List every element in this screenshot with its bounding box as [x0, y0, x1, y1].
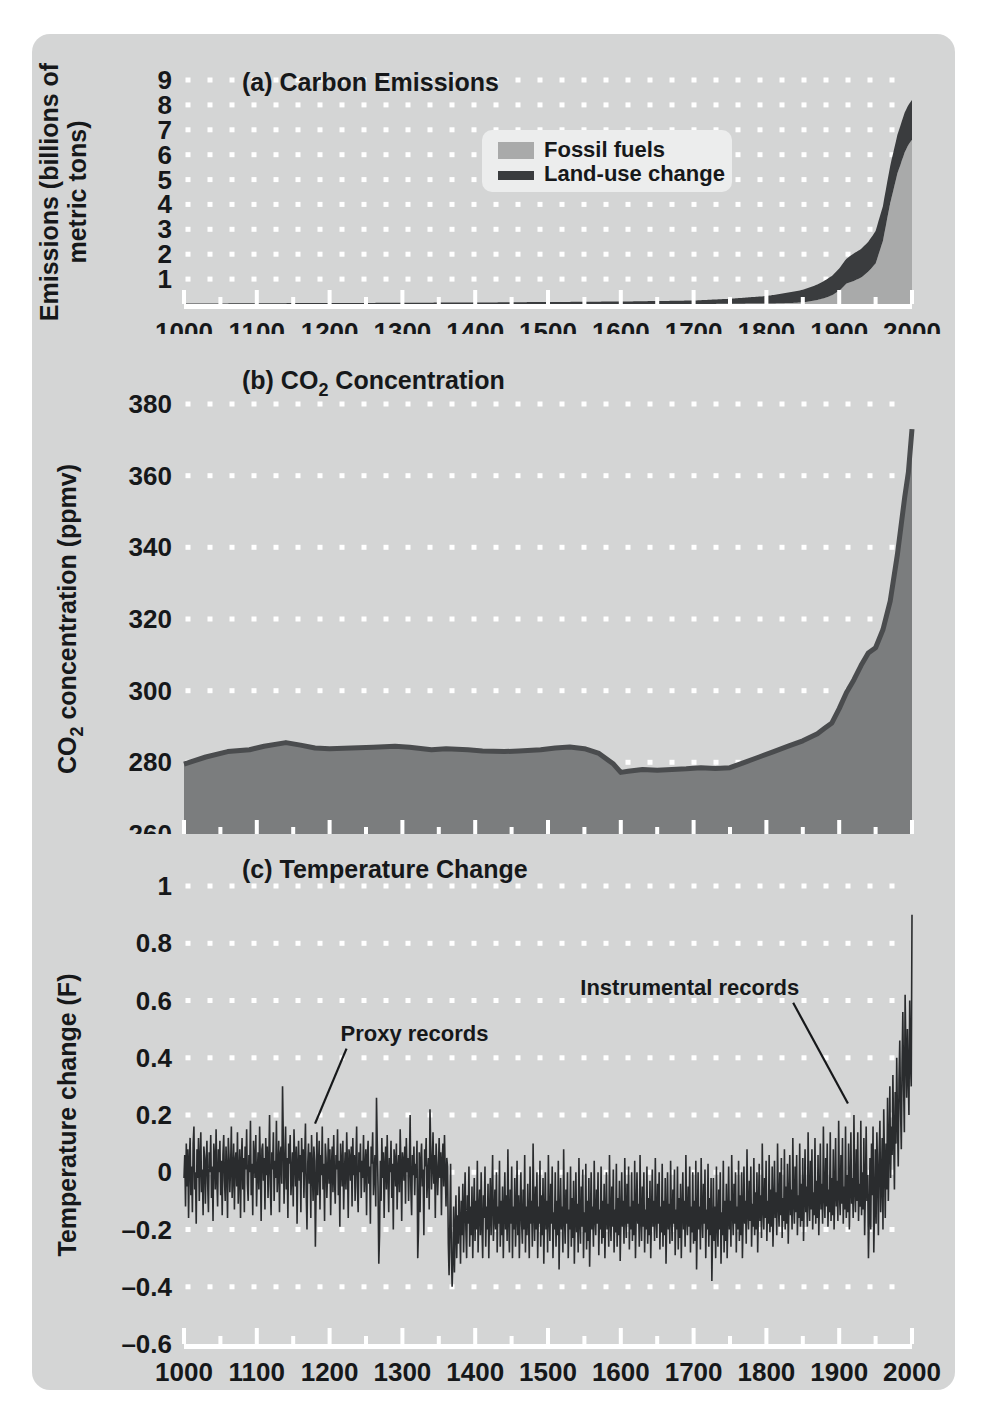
grid-dot — [230, 202, 235, 207]
grid-dot — [384, 998, 389, 1003]
x-tick-label: 1800 — [737, 1357, 795, 1387]
grid-dot — [428, 177, 433, 182]
grid-dot — [450, 688, 455, 693]
grid-dot — [472, 941, 477, 946]
grid-dot — [274, 473, 279, 478]
grid-dot — [516, 998, 521, 1003]
grid-dot — [428, 473, 433, 478]
grid-dot — [252, 402, 257, 407]
grid-dot — [208, 252, 213, 257]
grid-dot — [670, 1055, 675, 1060]
grid-dot — [318, 202, 323, 207]
grid-dot — [846, 127, 851, 132]
grid-dot — [274, 617, 279, 622]
panel-c-title: (c) Temperature Change — [242, 855, 528, 883]
grid-dot — [384, 617, 389, 622]
grid-dot — [626, 227, 631, 232]
grid-dot — [516, 941, 521, 946]
grid-dot — [890, 1055, 895, 1060]
grid-dot — [802, 998, 807, 1003]
grid-dot — [780, 227, 785, 232]
grid-dot — [626, 884, 631, 889]
grid-dot — [186, 102, 191, 107]
grid-dot — [340, 545, 345, 550]
x-tick-major — [182, 290, 186, 304]
grid-dot — [428, 688, 433, 693]
grid-dot — [208, 473, 213, 478]
grid-dot — [230, 402, 235, 407]
grid-dot — [670, 227, 675, 232]
grid-dot — [230, 545, 235, 550]
x-tick-label: 1000 — [155, 317, 213, 334]
grid-dot — [780, 1113, 785, 1118]
x-tick-label: 1500 — [519, 1357, 577, 1387]
grid-dot — [604, 402, 609, 407]
grid-dot — [362, 252, 367, 257]
y-tick-labels: 260280300320340360380 — [129, 389, 172, 834]
x-tick-major — [910, 1328, 914, 1344]
grid-dot — [890, 473, 895, 478]
grid-dot — [230, 227, 235, 232]
grid-dot — [318, 1284, 323, 1289]
grid-dot — [648, 545, 653, 550]
grid-dot — [692, 78, 697, 83]
x-tick-major — [546, 1328, 550, 1344]
grid-dot — [384, 473, 389, 478]
grid-dot — [824, 102, 829, 107]
grid-dot — [736, 688, 741, 693]
grid-dot — [428, 202, 433, 207]
grid-dot — [736, 152, 741, 157]
grid-dot — [824, 884, 829, 889]
x-tick-minor — [291, 1336, 295, 1344]
grid-dot — [824, 617, 829, 622]
grid-dot — [560, 78, 565, 83]
grid-dot — [384, 1055, 389, 1060]
grid-dot — [780, 473, 785, 478]
grid-dot — [362, 127, 367, 132]
grid-dot — [362, 617, 367, 622]
grid-dot — [670, 688, 675, 693]
grid-dot — [802, 252, 807, 257]
grid-dot — [802, 152, 807, 157]
grid-dot — [494, 617, 499, 622]
grid-dot — [692, 760, 697, 765]
grid-dot — [296, 884, 301, 889]
grid-dot — [626, 617, 631, 622]
grid-dot — [582, 688, 587, 693]
grid-dot — [516, 473, 521, 478]
x-tick-major — [473, 1328, 477, 1344]
grid-dot — [582, 884, 587, 889]
grid-dot — [340, 1227, 345, 1232]
grid-dot — [868, 402, 873, 407]
grid-dot — [274, 1284, 279, 1289]
x-tick-minor — [728, 297, 732, 304]
grid-dot — [626, 402, 631, 407]
grid-dot — [252, 152, 257, 157]
grid-dot — [802, 1113, 807, 1118]
grid-dot — [538, 545, 543, 550]
x-tick-major — [619, 290, 623, 304]
grid-dot — [252, 202, 257, 207]
grid-dot — [406, 177, 411, 182]
grid-dot — [494, 545, 499, 550]
grid-dot — [362, 1284, 367, 1289]
grid-dot — [252, 102, 257, 107]
grid-dot — [626, 473, 631, 478]
grid-dot — [780, 152, 785, 157]
grid-dot — [824, 998, 829, 1003]
grid-dot — [296, 402, 301, 407]
grid-dot — [582, 473, 587, 478]
grid-dot — [868, 102, 873, 107]
grid-dot — [626, 277, 631, 282]
grid-dot — [758, 202, 763, 207]
y-tick-label: 0.4 — [136, 1043, 173, 1073]
grid-dot — [494, 1113, 499, 1118]
grid-dot — [780, 884, 785, 889]
grid-dot — [736, 884, 741, 889]
grid-dot — [230, 688, 235, 693]
grid-dot — [296, 277, 301, 282]
grid-dot — [340, 998, 345, 1003]
grid-dot — [736, 177, 741, 182]
grid-dot — [428, 1284, 433, 1289]
grid-dot — [846, 227, 851, 232]
